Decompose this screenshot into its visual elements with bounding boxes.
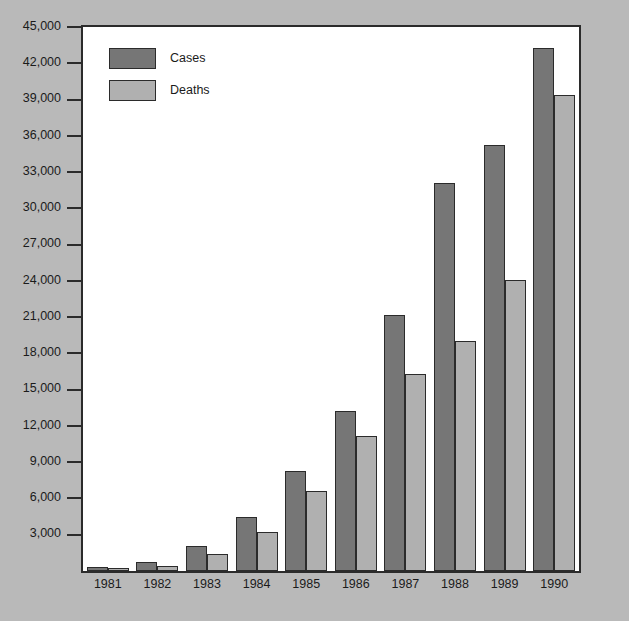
bar-deaths (356, 436, 377, 571)
y-axis-tick-mark (67, 280, 81, 282)
legend-item: Cases (109, 48, 269, 69)
bar-cases (136, 562, 157, 571)
x-axis-tick-label: 1985 (281, 578, 331, 591)
bar-deaths (554, 95, 575, 571)
bar-cases (87, 567, 108, 571)
bar-deaths (257, 532, 278, 571)
bar-cases (186, 546, 207, 571)
bar-deaths (455, 341, 476, 571)
bar-deaths (306, 491, 327, 571)
y-axis-tick-label: 27,000 (23, 237, 61, 250)
y-axis-tick-label: 18,000 (23, 346, 61, 359)
x-axis-tick-label: 1982 (133, 578, 183, 591)
x-axis-tick-label: 1981 (83, 578, 133, 591)
bar-cases (335, 411, 356, 571)
y-axis-tick-label: 12,000 (23, 419, 61, 432)
x-axis-tick-label: 1987 (381, 578, 431, 591)
bar-cases (236, 517, 257, 571)
bar-cases (533, 48, 554, 571)
y-axis-tick-mark (67, 534, 81, 536)
chart-legend: CasesDeaths (109, 48, 269, 112)
x-axis-tick-label: 1983 (182, 578, 232, 591)
legend-item: Deaths (109, 80, 269, 101)
bar-cases (434, 183, 455, 571)
year-group (384, 27, 426, 571)
legend-swatch (109, 48, 156, 69)
bar-deaths (207, 554, 228, 571)
bar-deaths (505, 280, 526, 571)
y-axis-tick-label: 42,000 (23, 56, 61, 69)
year-group (434, 27, 476, 571)
bar-cases (384, 315, 405, 571)
x-axis-tick-label: 1990 (529, 578, 579, 591)
y-axis-tick-label: 45,000 (23, 20, 61, 33)
x-axis: 1981198219831984198519861987198819891990 (83, 578, 579, 602)
y-axis-tick-mark (67, 244, 81, 246)
y-axis-tick-mark (67, 316, 81, 318)
y-axis-tick-mark (67, 352, 81, 354)
y-axis-tick-label: 36,000 (23, 129, 61, 142)
y-axis-tick-label: 39,000 (23, 92, 61, 105)
y-axis-tick-mark (67, 171, 81, 173)
bar-deaths (108, 568, 129, 571)
x-axis-tick-label: 1988 (430, 578, 480, 591)
bar-deaths (157, 566, 178, 571)
bar-deaths (405, 374, 426, 571)
y-axis-tick-mark (67, 62, 81, 64)
y-axis: 3,0006,0009,00012,00015,00018,00021,0002… (0, 25, 81, 575)
y-axis-tick-mark (67, 497, 81, 499)
year-group (533, 27, 575, 571)
y-axis-tick-label: 24,000 (23, 274, 61, 287)
x-axis-tick-label: 1986 (331, 578, 381, 591)
y-axis-tick-mark (67, 461, 81, 463)
legend-label: Cases (170, 52, 205, 65)
y-axis-tick-label: 6,000 (30, 491, 61, 504)
y-axis-tick-mark (67, 425, 81, 427)
year-group (285, 27, 327, 571)
legend-swatch (109, 80, 156, 101)
bar-cases (285, 471, 306, 571)
y-axis-tick-mark (67, 389, 81, 391)
bar-cases (484, 145, 505, 571)
y-axis-tick-mark (67, 207, 81, 209)
year-group (335, 27, 377, 571)
y-axis-tick-mark (67, 99, 81, 101)
y-axis-tick-label: 9,000 (30, 455, 61, 468)
y-axis-tick-label: 30,000 (23, 201, 61, 214)
year-group (484, 27, 526, 571)
y-axis-tick-label: 3,000 (30, 527, 61, 540)
y-axis-tick-mark (67, 135, 81, 137)
y-axis-tick-label: 21,000 (23, 310, 61, 323)
legend-label: Deaths (170, 84, 210, 97)
y-axis-tick-label: 15,000 (23, 382, 61, 395)
x-axis-tick-label: 1989 (480, 578, 530, 591)
bar-chart-figure: 3,0006,0009,00012,00015,00018,00021,0002… (0, 0, 629, 621)
x-axis-tick-label: 1984 (232, 578, 282, 591)
y-axis-tick-label: 33,000 (23, 165, 61, 178)
y-axis-tick-mark (67, 26, 81, 28)
